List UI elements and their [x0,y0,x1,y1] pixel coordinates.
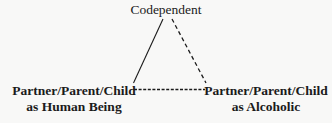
node-codependent: Codependent [0,2,332,18]
edge-codependent-to-human-being [134,19,164,83]
relationship-diagram: Codependent Partner/Parent/Child as Huma… [0,0,332,123]
node-alcoholic-line2: as Alcoholic [200,99,332,115]
edge-codependent-to-alcoholic [172,19,206,83]
node-alcoholic-line1: Partner/Parent/Child [200,83,332,99]
node-human-being-line1: Partner/Parent/Child [8,83,140,99]
node-partner-parent-child-human-being: Partner/Parent/Child as Human Being [8,83,140,115]
node-partner-parent-child-alcoholic: Partner/Parent/Child as Alcoholic [200,83,332,115]
node-codependent-label: Codependent [0,2,332,18]
node-human-being-line2: as Human Being [8,99,140,115]
